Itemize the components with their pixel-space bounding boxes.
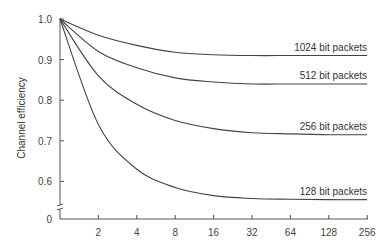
x-tick-label: 256 <box>359 227 376 238</box>
y-tick-label: 0.7 <box>38 136 52 147</box>
y-tick-label: 0 <box>46 214 52 225</box>
y-tick-label: 0.8 <box>38 95 52 106</box>
channel-efficiency-chart: 1.00.90.80.70.60 248163264128256 Channel… <box>0 0 392 251</box>
x-tick-label: 128 <box>320 227 337 238</box>
series-label: 512 bit packets <box>300 70 367 81</box>
series-labels: 1024 bit packets512 bit packets256 bit p… <box>294 42 367 197</box>
axis-break-icon <box>57 204 63 210</box>
x-tick-label: 16 <box>208 227 220 238</box>
x-tick-label: 64 <box>285 227 297 238</box>
x-tick-label: 32 <box>246 227 258 238</box>
x-tick-label: 8 <box>172 227 178 238</box>
series-label: 128 bit packets <box>300 186 367 197</box>
y-tick-label: 0.6 <box>38 176 52 187</box>
y-tick-label: 0.9 <box>38 55 52 66</box>
y-tick-label: 1.0 <box>38 14 52 25</box>
x-tick-label: 4 <box>134 227 140 238</box>
series-label: 1024 bit packets <box>294 42 367 53</box>
x-ticks: 248163264128256 <box>96 215 376 238</box>
y-axis-label: Channel efficiency <box>16 77 27 159</box>
x-tick-label: 2 <box>96 227 102 238</box>
series-label: 256 bit packets <box>300 121 367 132</box>
